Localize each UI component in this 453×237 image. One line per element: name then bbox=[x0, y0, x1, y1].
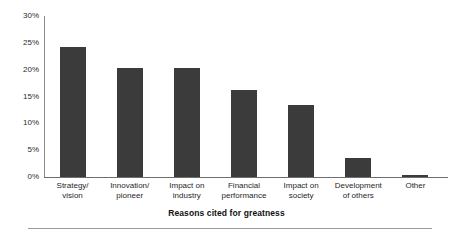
plot-area: 30%25%20%15%10%5%0% bbox=[44, 16, 444, 177]
y-axis-tick-label: 0% bbox=[27, 173, 44, 181]
bar bbox=[174, 68, 200, 177]
y-axis-tick-label: 25% bbox=[23, 39, 44, 47]
y-axis-tick-label: 20% bbox=[23, 66, 44, 74]
y-axis-tick-label: 10% bbox=[23, 119, 44, 127]
y-axis-tick-label: 5% bbox=[27, 146, 44, 154]
bar bbox=[117, 68, 143, 177]
x-axis-tick-label: Other bbox=[377, 181, 453, 191]
x-axis-tick-label-line: Other bbox=[377, 181, 453, 191]
y-axis-tick-label: 15% bbox=[23, 93, 44, 101]
bar bbox=[402, 175, 428, 177]
x-axis-line bbox=[44, 177, 448, 178]
bottom-divider bbox=[28, 228, 432, 229]
y-axis-tick-label: 30% bbox=[23, 12, 44, 20]
bar bbox=[231, 90, 257, 177]
bar bbox=[288, 105, 314, 177]
bar bbox=[345, 158, 371, 177]
x-axis-title: Reasons cited for greatness bbox=[0, 208, 453, 218]
x-axis-tick-label-line: of others bbox=[320, 191, 396, 201]
bar bbox=[60, 47, 86, 177]
bar-chart-figure: 30%25%20%15%10%5%0% Reasons cited for gr… bbox=[0, 0, 453, 237]
